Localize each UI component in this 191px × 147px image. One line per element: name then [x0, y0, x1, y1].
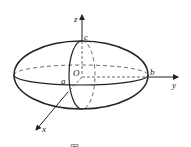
a-label: a	[61, 76, 66, 86]
b-label: b	[150, 67, 155, 77]
figure-caption: 图	[70, 144, 79, 147]
ellipsoid-outline	[14, 41, 148, 109]
equator-front	[14, 75, 148, 85]
ellipsoid-diagram: z c O a b y x 图	[0, 0, 191, 147]
origin-label: O	[73, 68, 80, 78]
y-axis-label: y	[171, 80, 176, 90]
meridian-back	[82, 41, 95, 109]
x-axis	[36, 92, 68, 130]
c-label: c	[84, 32, 88, 42]
z-axis-label: z	[73, 14, 78, 24]
x-axis-label: x	[41, 124, 46, 134]
equator-back	[14, 65, 148, 75]
